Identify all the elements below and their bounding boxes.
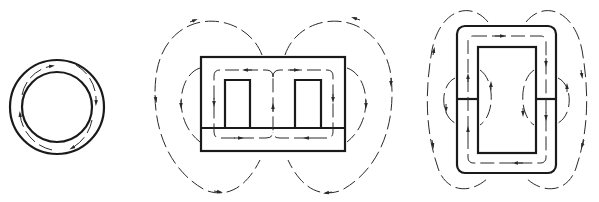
shell-left-window [225,80,250,128]
toroid-flux-arrows-icon [20,65,96,150]
shell-core [155,18,392,193]
toroid-outer-ring [10,60,104,154]
toroid-core [10,60,104,154]
core-type-internal-flux-icon [468,36,546,163]
shell-right-window [295,80,321,128]
magnetic-cores-diagram [0,0,599,202]
core-type-core [427,11,586,189]
toroid-inner-ring [22,72,92,142]
core-type-window [478,47,536,153]
core-type-leakage-flux-icon [427,11,586,189]
